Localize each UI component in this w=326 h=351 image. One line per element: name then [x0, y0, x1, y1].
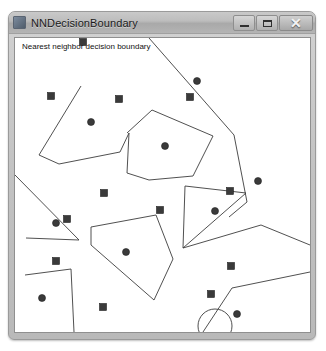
data-point-square [116, 96, 123, 103]
data-point-circle [255, 178, 262, 185]
data-point-square [48, 93, 55, 100]
annotation-circle [198, 309, 232, 332]
boundary-layer [15, 38, 310, 332]
data-point-square [53, 258, 60, 265]
data-point-square [157, 207, 164, 214]
data-point-square [100, 304, 107, 311]
data-point-circle [194, 78, 201, 85]
drawing-canvas[interactable]: Nearest neighbor decision boundary [14, 37, 311, 333]
maximize-icon [263, 20, 272, 27]
maximize-button[interactable] [256, 15, 278, 31]
decision-boundary-path [183, 225, 310, 248]
data-point-square [208, 291, 215, 298]
minimize-button[interactable] [233, 15, 255, 31]
title-bar[interactable]: NNDecisionBoundary ✕ [9, 12, 315, 34]
data-point-circle [53, 220, 60, 227]
data-point-circle [234, 311, 241, 318]
data-point-circle [123, 249, 130, 256]
data-point-square [101, 190, 108, 197]
window-title: NNDecisionBoundary [31, 17, 232, 29]
decision-boundary-path [15, 175, 79, 240]
data-point-circle [88, 119, 95, 126]
close-icon: ✕ [280, 16, 312, 30]
data-point-square [187, 94, 194, 101]
application-window: NNDecisionBoundary ✕ Nearest neighbor de… [8, 11, 316, 340]
canvas-label: Nearest neighbor decision boundary [22, 42, 151, 52]
data-point-circle [212, 208, 219, 215]
decision-boundary-path [91, 215, 173, 300]
decision-boundary-path [232, 272, 310, 288]
decision-boundary-path [25, 269, 74, 332]
data-point-square [228, 263, 235, 270]
decision-boundary-plot [15, 38, 310, 332]
data-point-circle [162, 143, 169, 150]
data-point-circle [39, 295, 46, 302]
minimize-icon [240, 25, 249, 27]
close-button[interactable]: ✕ [279, 15, 313, 31]
app-icon [13, 16, 26, 29]
data-point-square [227, 188, 234, 195]
data-point-square [64, 216, 71, 223]
